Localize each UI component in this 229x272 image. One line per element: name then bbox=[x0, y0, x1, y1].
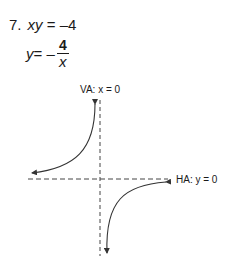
vertical-asymptote-label: VA: x = 0 bbox=[80, 84, 120, 95]
upper-left-branch bbox=[32, 104, 95, 173]
hyperbola-graph bbox=[0, 0, 229, 272]
lower-right-branch bbox=[107, 182, 166, 253]
horizontal-asymptote-label: HA: y = 0 bbox=[176, 174, 217, 185]
